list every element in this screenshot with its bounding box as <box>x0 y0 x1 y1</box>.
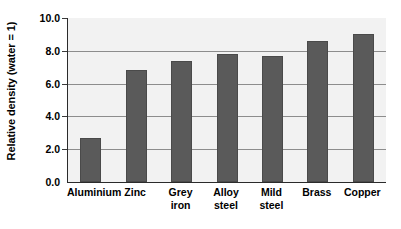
bar <box>307 41 328 182</box>
bar-chart-figure: Relative density (water = 1) 0.02.04.06.… <box>0 0 401 229</box>
bar <box>171 61 192 182</box>
y-tick-mark <box>62 84 67 85</box>
bar <box>80 138 101 182</box>
plot-area <box>67 18 386 183</box>
y-tick-label: 4.0 <box>20 110 60 122</box>
y-tick-mark <box>62 51 67 52</box>
y-axis-tick-labels: 0.02.04.06.08.010.0 <box>20 0 60 229</box>
y-tick-label: 8.0 <box>20 45 60 57</box>
y-tick-label: 10.0 <box>20 12 60 24</box>
bar <box>262 56 283 182</box>
x-tick-label: Alloy steel <box>203 186 248 211</box>
x-tick-label: Copper <box>340 186 385 199</box>
x-axis-tick-labels: AluminiumZincGrey ironAlloy steelMild st… <box>67 186 385 229</box>
y-tick-mark <box>62 149 67 150</box>
y-tick-label: 6.0 <box>20 78 60 90</box>
y-tick-mark <box>62 18 67 19</box>
y-axis-title: Relative density (water = 1) <box>2 0 20 182</box>
gridline <box>68 51 386 52</box>
x-tick-label: Grey iron <box>158 186 203 211</box>
bar <box>126 70 147 182</box>
bar <box>217 54 238 182</box>
y-tick-mark <box>62 116 67 117</box>
x-tick-label: Aluminium <box>67 186 112 199</box>
bar <box>353 34 374 182</box>
y-tick-label: 2.0 <box>20 143 60 155</box>
y-tick-label: 0.0 <box>20 176 60 188</box>
x-tick-label: Brass <box>294 186 339 199</box>
x-tick-label: Zinc <box>112 186 157 199</box>
x-tick-label: Mild steel <box>249 186 294 211</box>
